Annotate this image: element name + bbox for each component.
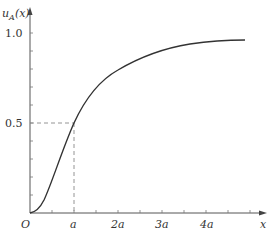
y-tick-label-0.5: 0.5 xyxy=(5,117,23,130)
x-axis-arrow-icon xyxy=(259,211,267,216)
y-tick-label-1.0: 1.0 xyxy=(5,27,23,40)
x-tick-label-3a: 3a xyxy=(155,218,169,231)
x-axis-label: x xyxy=(260,218,267,231)
y-axis-label: uA(x) xyxy=(2,7,30,22)
x-tick-label-2a: 2a xyxy=(110,218,125,231)
x-tick-label-a: a xyxy=(70,218,77,231)
origin-label: O xyxy=(21,218,30,231)
x-tick-label-4a: 4a xyxy=(199,218,214,231)
membership-function-chart: uA(x) 1.0 0.5 O a 2a 3a 4a x xyxy=(0,0,269,232)
membership-curve xyxy=(30,40,245,213)
